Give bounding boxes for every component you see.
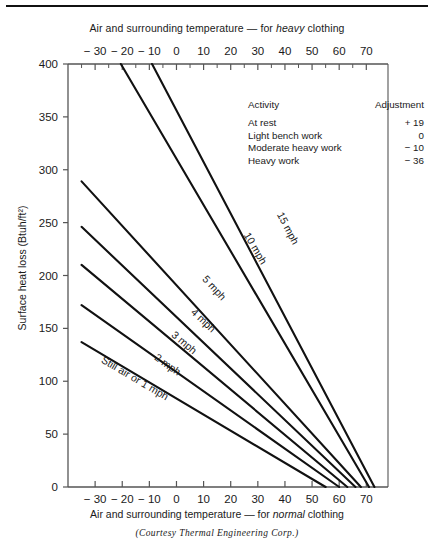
x-axis-tick-label-top: − 30 [84, 45, 107, 57]
figure-root: Air and surrounding temperature — for he… [0, 0, 434, 547]
x-axis-tick-label-top: 50 [306, 45, 319, 57]
y-axis-tick-label: 150 [39, 322, 58, 334]
x-axis-tick-label-top: 30 [251, 45, 264, 57]
x-axis-tick-label-top: 10 [197, 45, 210, 57]
activity-adjustment: − 10 [338, 142, 424, 154]
y-axis-tick-label: 100 [39, 375, 58, 387]
x-axis-tick-label-top: − 20 [111, 45, 134, 57]
bottom-axis-title-post: clothing [305, 508, 344, 520]
x-axis-tick-label-top: 0 [173, 45, 179, 57]
activity-name: At rest [248, 117, 276, 129]
y-axis-tick-label: 250 [39, 217, 58, 229]
bottom-axis-title-emphasis: normal [273, 508, 305, 520]
curve-label: 5 mph [200, 273, 229, 303]
y-axis-tick-label: 350 [39, 111, 58, 123]
table-row: Moderate heavy work − 10 [248, 142, 428, 154]
x-axis-tick-label-bottom: − 10 [138, 493, 161, 505]
x-axis-tick-label-bottom: 70 [360, 493, 373, 505]
activity-name: Moderate heavy work [248, 142, 342, 154]
data-line [82, 227, 356, 487]
x-axis-tick-label-top: 70 [360, 45, 373, 57]
y-axis-tick-label: 50 [45, 428, 58, 440]
x-axis-tick-label-bottom: 10 [197, 493, 210, 505]
table-row: Heavy work − 36 [248, 155, 428, 167]
activity-adjustment: + 19 [338, 117, 424, 129]
activity-adjustment: − 36 [338, 155, 424, 167]
x-axis-tick-label-top: 40 [279, 45, 292, 57]
table-row: At rest + 19 [248, 117, 428, 129]
plot-area: 050100150200250300350400− 30− 30− 20− 20… [0, 0, 434, 547]
activity-name: Light bench work [248, 130, 322, 142]
x-axis-tick-label-bottom: 50 [306, 493, 319, 505]
activity-name: Heavy work [248, 155, 299, 167]
figure-credit: (Courtesy Thermal Engineering Corp.) [0, 528, 434, 538]
bottom-axis-title: Air and surrounding temperature — for no… [0, 508, 434, 520]
y-axis-tick-label: 200 [39, 270, 58, 282]
x-axis-tick-label-bottom: − 30 [84, 493, 107, 505]
x-axis-tick-label-top: − 10 [138, 45, 161, 57]
y-axis-tick-label: 300 [39, 164, 58, 176]
x-axis-tick-label-bottom: 30 [251, 493, 264, 505]
curve-label: 4 mph [189, 306, 219, 335]
activity-adjustment-table: Activity Adjustment At rest + 19 Light b… [248, 99, 428, 167]
curve-label: 15 mph [275, 210, 302, 247]
x-axis-tick-label-bottom: 40 [279, 493, 292, 505]
x-axis-tick-label-bottom: 20 [224, 493, 237, 505]
x-axis-tick-label-bottom: − 20 [111, 493, 134, 505]
column-header-adjustment: Adjustment [338, 99, 424, 111]
table-row: Light bench work 0 [248, 130, 428, 142]
curve-label: 2 mph [153, 351, 184, 378]
y-axis-tick-label: 400 [39, 58, 58, 70]
y-axis-tick-label: 0 [52, 481, 58, 493]
x-axis-tick-label-top: 20 [224, 45, 237, 57]
bottom-axis-title-dash: — for [244, 508, 273, 520]
x-axis-tick-label-top: 60 [333, 45, 346, 57]
column-header-activity: Activity [248, 99, 279, 111]
x-axis-tick-label-bottom: 0 [173, 493, 179, 505]
bottom-axis-title-pre: Air and surrounding temperature [90, 508, 244, 520]
activity-adjustment: 0 [338, 130, 424, 142]
table-header-row: Activity Adjustment [248, 99, 428, 111]
x-axis-tick-label-bottom: 60 [333, 493, 346, 505]
